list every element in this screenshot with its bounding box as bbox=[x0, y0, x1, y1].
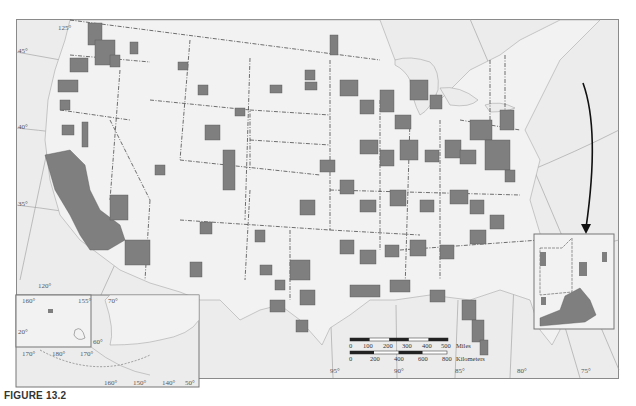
lat-label-40: 40° bbox=[18, 123, 28, 131]
scale-miles-unit: Miles bbox=[456, 342, 471, 349]
alaska-label-70: 70° bbox=[108, 297, 118, 305]
hawaii-label-160: 160° bbox=[22, 297, 36, 305]
scale-km-600: 600 bbox=[418, 355, 428, 362]
alaska-label-170w: 170° bbox=[22, 350, 36, 358]
lat-label-35: 35° bbox=[18, 200, 28, 208]
alaska-label-170e: 170° bbox=[80, 350, 94, 358]
lat-label-45: 45° bbox=[18, 47, 28, 55]
scale-mi-500: 500 bbox=[441, 342, 451, 349]
lon-label-90: 90° bbox=[394, 367, 404, 375]
scale-mi-300: 300 bbox=[402, 342, 412, 349]
lon-label-120: 120° bbox=[38, 282, 52, 290]
alaska-label-60: 60° bbox=[93, 338, 103, 346]
alaska-label-150: 150° bbox=[133, 379, 147, 387]
alaska-label-140: 140° bbox=[162, 379, 176, 387]
scale-mi-200: 200 bbox=[383, 342, 393, 349]
scale-km-0: 0 bbox=[349, 355, 352, 362]
scale-bar: 0 100 200 300 400 500 Miles 0 200 400 60… bbox=[349, 338, 485, 362]
hawaii-label-155: 155° bbox=[78, 297, 92, 305]
scale-mi-0: 0 bbox=[349, 342, 352, 349]
pointer-arrow-line bbox=[583, 83, 592, 228]
alaska-label-50: 50° bbox=[185, 379, 195, 387]
scale-mi-100: 100 bbox=[363, 342, 373, 349]
hawaii-label-20: 20° bbox=[18, 328, 28, 336]
scale-mi-400: 400 bbox=[422, 342, 432, 349]
lon-label-80: 80° bbox=[517, 367, 527, 375]
alaska-label-160: 160° bbox=[104, 379, 118, 387]
alaska-hawaii-inset: 160° 155° 20° 70° 60° 170° 180° 170° 160… bbox=[16, 295, 199, 387]
scale-km-unit: Kilometers bbox=[456, 355, 485, 362]
scale-km-200: 200 bbox=[370, 355, 380, 362]
new-england-inset bbox=[534, 83, 614, 329]
us-metro-county-map: 45° 40° 35° 125° 120° 95° 90° 85° 80° 75… bbox=[0, 0, 636, 406]
scale-km-800: 800 bbox=[442, 355, 452, 362]
lon-label-75: 75° bbox=[581, 367, 591, 375]
lon-label-95: 95° bbox=[330, 367, 340, 375]
figure-caption: FIGURE 13.2 bbox=[4, 390, 66, 401]
lon-label-85: 85° bbox=[455, 367, 465, 375]
lon-label-125: 125° bbox=[58, 24, 72, 32]
scale-km-400: 400 bbox=[394, 355, 404, 362]
alaska-label-180: 180° bbox=[52, 350, 66, 358]
pointer-arrow-icon bbox=[581, 224, 591, 234]
